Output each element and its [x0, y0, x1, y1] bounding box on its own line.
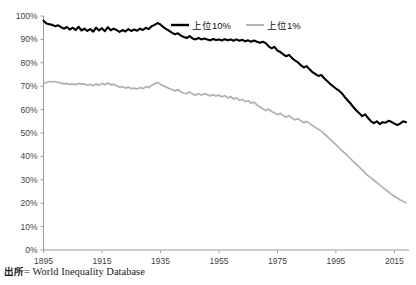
x-tick-label: 1935 — [151, 256, 170, 266]
series-line-2 — [44, 82, 407, 203]
legend-label-1: 上位10% — [192, 20, 232, 31]
x-tick-label: 1975 — [268, 256, 287, 266]
y-tick-label: 0% — [25, 245, 38, 255]
y-tick-label: 40% — [20, 151, 37, 161]
y-tick-label: 80% — [20, 58, 37, 68]
y-tick-label: 100% — [16, 11, 38, 21]
y-tick-label: 60% — [20, 105, 37, 115]
source-separator: = — [24, 266, 30, 277]
y-tick-label: 50% — [20, 128, 37, 138]
y-tick-label: 90% — [20, 34, 37, 44]
y-tick-label: 20% — [20, 198, 37, 208]
source-prefix: 出所 — [4, 266, 24, 277]
legend-label-2: 上位1% — [267, 20, 301, 31]
series-line-1 — [44, 21, 407, 125]
source-note: 出所= World Inequality Database — [4, 264, 145, 278]
source-text: World Inequality Database — [33, 266, 145, 277]
y-tick-label: 30% — [20, 175, 37, 185]
x-tick-label: 2015 — [385, 256, 404, 266]
line-chart: 0%10%20%30%40%50%60%70%80%90%100%1895191… — [0, 0, 416, 285]
chart-container: 0%10%20%30%40%50%60%70%80%90%100%1895191… — [0, 0, 416, 285]
y-tick-label: 10% — [20, 222, 37, 232]
x-tick-label: 1955 — [209, 256, 228, 266]
x-tick-label: 1995 — [326, 256, 345, 266]
y-tick-label: 70% — [20, 81, 37, 91]
